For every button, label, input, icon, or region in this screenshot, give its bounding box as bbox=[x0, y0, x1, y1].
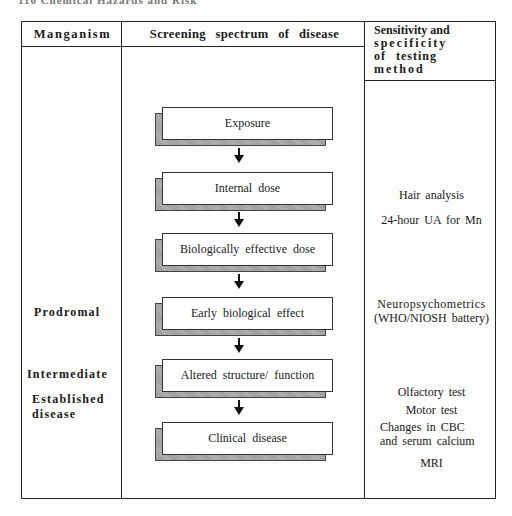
step-early-biological-effect: Early biological effect bbox=[155, 297, 335, 337]
step-box: Exposure bbox=[162, 107, 333, 140]
method-24h-ua: 24-hour UA for Mn bbox=[366, 213, 497, 227]
method-line: MRI bbox=[366, 456, 497, 470]
running-header: 116 Chemical Hazards and Risk bbox=[18, 0, 197, 6]
method-hair-analysis: Hair analysis bbox=[366, 188, 497, 202]
stage-label: Prodromal bbox=[34, 305, 100, 319]
step-box: Internal dose bbox=[162, 172, 333, 205]
method-olfactory-test: Olfactory test bbox=[366, 385, 497, 399]
header-divider-left bbox=[22, 46, 364, 47]
method-neuropsychometrics: Neuropsychometrics (WHO/NIOSH battery) bbox=[366, 297, 497, 325]
method-line: Hair analysis bbox=[366, 188, 497, 202]
manganism-screening-table: Manganism Screening spectrum of disease … bbox=[21, 21, 496, 499]
stage-prodromal: Prodromal bbox=[34, 305, 100, 320]
method-cbc-serum-calcium: Changes in CBC and serum calcium bbox=[366, 420, 497, 448]
step-altered-structure-function: Altered structure/ function bbox=[155, 359, 335, 399]
step-box: Altered structure/ function bbox=[162, 359, 333, 392]
step-box: Biologically effective dose bbox=[162, 233, 333, 266]
step-biologically-effective-dose: Biologically effective dose bbox=[155, 233, 335, 273]
method-line: Motor test bbox=[366, 403, 497, 417]
step-internal-dose: Internal dose bbox=[155, 172, 335, 212]
method-line: and serum calcium bbox=[380, 434, 497, 448]
column-divider-1 bbox=[121, 22, 122, 498]
header-divider-right bbox=[364, 80, 495, 81]
step-clinical-disease: Clinical disease bbox=[155, 422, 335, 462]
header-sensitivity-specificity: Sensitivity and specificity of testing m… bbox=[374, 24, 494, 76]
method-line: Olfactory test bbox=[366, 385, 497, 399]
header-screening-spectrum: Screening spectrum of disease bbox=[123, 27, 366, 42]
stage-label: Established bbox=[32, 392, 105, 407]
method-mri: MRI bbox=[366, 456, 497, 470]
method-line: Neuropsychometrics bbox=[366, 297, 497, 311]
method-motor-test: Motor test bbox=[366, 403, 497, 417]
method-line: 24-hour UA for Mn bbox=[366, 213, 497, 227]
header-manganism: Manganism bbox=[22, 27, 123, 42]
header-line: method bbox=[374, 63, 494, 76]
step-box: Clinical disease bbox=[162, 422, 333, 455]
column-divider-2 bbox=[364, 22, 365, 498]
method-line: (WHO/NIOSH battery) bbox=[366, 311, 497, 325]
step-exposure: Exposure bbox=[155, 107, 335, 147]
stage-established-disease: Established disease bbox=[32, 392, 105, 422]
stage-label: disease bbox=[32, 407, 105, 422]
step-box: Early biological effect bbox=[162, 297, 333, 330]
stage-intermediate: Intermediate bbox=[27, 367, 108, 382]
method-line: Changes in CBC bbox=[380, 420, 497, 434]
stage-label: Intermediate bbox=[27, 367, 108, 381]
